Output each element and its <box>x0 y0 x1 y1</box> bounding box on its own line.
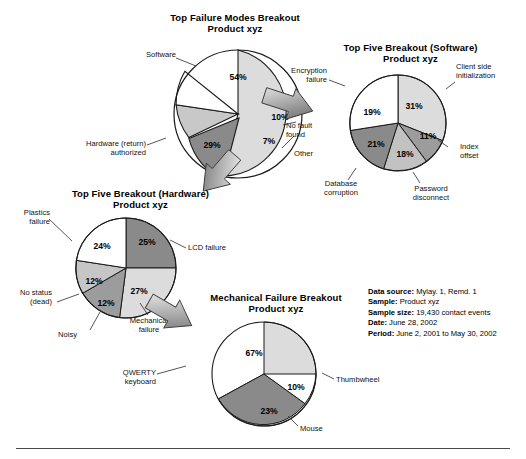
pie-value-no-status: 12% <box>85 276 103 286</box>
pie-mechanical-breakout: 67% 23% 10% <box>210 320 324 430</box>
label-no-fault-found-l1: No fault <box>286 121 326 130</box>
label-hardware-return: Hardware (return) authorized <box>62 139 146 157</box>
pie-value-other: 7% <box>263 136 276 146</box>
chart-title-software-breakout: Top Five Breakout (Software) Product xyz <box>318 42 503 64</box>
label-no-fault-found: No fault found <box>286 121 326 139</box>
chart-title4-line1: Mechanical Failure Breakout <box>190 292 362 303</box>
pie-software-breakout: 31% 11% 18% 21% 19% <box>348 73 458 177</box>
footer-divider <box>16 448 510 449</box>
label-encryption-failure-l1: Encryption <box>273 66 327 75</box>
source-line-data-source: Data source: Mylay. 1, Remd. 1 <box>368 287 526 297</box>
label-mechanical-failure-l1: Mechanical <box>118 316 180 325</box>
label-index-offset: Index offset <box>460 142 504 160</box>
label-no-status-dead: No status (dead) <box>0 288 52 306</box>
pie-hardware-breakout: 25% 27% 12% 12% 24% <box>75 216 187 326</box>
source-val-date: June 28, 2002 <box>387 318 437 327</box>
source-val-data-source: Mylay. 1, Remd. 1 <box>414 287 477 296</box>
label-database-corruption-l1: Database <box>312 179 370 188</box>
label-plastics-failure-l1: Plastics <box>2 208 50 217</box>
source-line-sample-size: Sample size: 19,430 contact events <box>368 308 526 318</box>
pie-value-qwerty: 67% <box>245 348 263 358</box>
pie-value-database: 21% <box>367 139 385 149</box>
label-qwerty-l1: QWERTY <box>98 368 156 377</box>
pie-value-mouse: 23% <box>260 406 278 416</box>
source-key-sample: Sample: <box>368 297 398 306</box>
figure-canvas: Top Failure Modes Breakout Product xyz 5… <box>0 0 526 459</box>
label-index-offset-l2: offset <box>460 151 504 160</box>
pie-slice-mechanical-failure <box>120 268 176 318</box>
source-key-period: Period: <box>368 329 394 338</box>
label-qwerty-keyboard: QWERTY keyboard <box>98 368 156 386</box>
label-other: Other <box>294 149 313 158</box>
chart-title3-line2: Product xyz <box>48 199 233 210</box>
pie-value-lcd: 25% <box>138 237 156 247</box>
label-thumbwheel: Thumbwheel <box>336 375 379 384</box>
label-mechanical-failure-l2: failure <box>118 325 180 334</box>
source-key-sample-size: Sample size: <box>368 308 414 317</box>
chart-title4-line2: Product xyz <box>190 303 362 314</box>
label-password-disconnect: Password disconnect <box>398 184 464 202</box>
pie-value-mechanical: 27% <box>130 286 148 296</box>
pie-slice-encryption-failure <box>350 75 398 131</box>
source-val-sample-size: 19,430 contact events <box>414 308 490 317</box>
chart-title-line2: Product xyz <box>140 23 330 34</box>
source-key-date: Date: <box>368 318 387 327</box>
label-no-status-l1: No status <box>0 288 52 297</box>
source-note-block: Data source: Mylay. 1, Remd. 1 Sample: P… <box>368 287 526 339</box>
label-database-corruption-l2: corruption <box>312 188 370 197</box>
chart-title-mechanical-breakout: Mechanical Failure Breakout Product xyz <box>190 292 362 314</box>
source-line-period: Period: June 2, 2001 to May 30, 2002 <box>368 329 526 339</box>
label-client-side-l1: Client side <box>456 62 522 71</box>
pie-value-hardware: 29% <box>203 140 221 150</box>
pie-value-thumbwheel: 10% <box>287 382 305 392</box>
source-line-date: Date: June 28, 2002 <box>368 318 526 328</box>
label-mechanical-failure: Mechanical failure <box>118 316 180 334</box>
pie-value-index-offset: 11% <box>420 131 437 141</box>
pie-value-client-side: 31% <box>405 101 423 111</box>
label-mouse: Mouse <box>300 424 323 433</box>
pie-value-password: 18% <box>396 149 414 159</box>
label-encryption-failure: Encryption failure <box>273 66 327 84</box>
label-no-fault-found-l2: found <box>286 130 326 139</box>
source-key-data-source: Data source: <box>368 287 414 296</box>
chart-title-failure-modes: Top Failure Modes Breakout Product xyz <box>140 12 330 34</box>
chart-title-line1: Top Failure Modes Breakout <box>140 12 330 23</box>
source-val-sample: Product xyz <box>398 297 440 306</box>
source-val-period: June 2, 2001 to May 30, 2002 <box>394 329 497 338</box>
pie-value-software: 54% <box>229 72 247 82</box>
label-encryption-failure-l2: failure <box>273 75 327 84</box>
label-database-corruption: Database corruption <box>312 179 370 197</box>
source-line-sample: Sample: Product xyz <box>368 297 526 307</box>
pie-value-encryption: 19% <box>363 107 381 117</box>
label-plastics-failure-l2: failure <box>2 217 50 226</box>
label-qwerty-l2: keyboard <box>98 377 156 386</box>
label-password-disconnect-l2: disconnect <box>398 193 464 202</box>
label-client-side: Client side initialization <box>456 62 522 80</box>
label-hardware-return-l1: Hardware (return) <box>62 139 146 148</box>
chart-title2-line1: Top Five Breakout (Software) <box>318 42 503 53</box>
label-noisy: Noisy <box>58 330 77 339</box>
label-software: Software <box>146 50 176 59</box>
label-no-status-l2: (dead) <box>0 297 52 306</box>
pie-value-plastics: 24% <box>93 241 111 251</box>
label-password-disconnect-l1: Password <box>398 184 464 193</box>
label-index-offset-l1: Index <box>460 142 504 151</box>
chart-title-hardware-breakout: Top Five Breakout (Hardware) Product xyz <box>48 188 233 210</box>
chart-title3-line1: Top Five Breakout (Hardware) <box>48 188 233 199</box>
label-client-side-l2: initialization <box>456 71 522 80</box>
label-hardware-return-l2: authorized <box>62 148 146 157</box>
label-lcd-failure: LCD failure <box>188 243 226 252</box>
pie-value-noisy: 12% <box>97 298 115 308</box>
label-plastics-failure: Plastics failure <box>2 208 50 226</box>
